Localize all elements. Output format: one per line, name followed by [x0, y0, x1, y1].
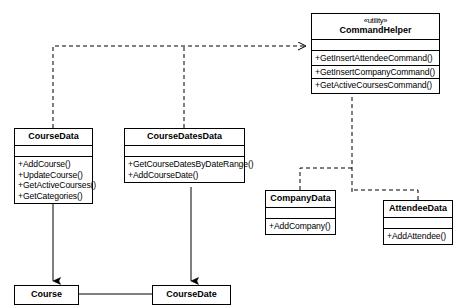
operation-item: +AddCourse(): [15, 159, 92, 170]
class-companydata-operations: +AddCompany(): [266, 219, 335, 234]
class-course-header: Course: [15, 286, 78, 304]
dependency-companydata-to-commandhelper: [300, 168, 352, 190]
operation-item: +GetInsertAttendeeCommand(): [312, 51, 439, 65]
class-companydata-attributes: [266, 208, 335, 219]
class-coursedatesdata-header: CourseDatesData: [125, 129, 244, 146]
operation-item: +AddAttendee(): [384, 231, 452, 242]
class-attendeedata[interactable]: AttendeeData +AddAttendee(): [383, 200, 453, 245]
dependency-coursedata-to-commandhelper: [53, 46, 306, 128]
class-commandhelper-name: CommandHelper: [339, 25, 411, 35]
class-coursedatesdata-attributes: [125, 146, 244, 157]
operation-item: +UpdateCourse(): [15, 170, 92, 181]
class-commandhelper-operations: +GetInsertAttendeeCommand() +GetInsertCo…: [312, 51, 439, 93]
class-coursedatesdata[interactable]: CourseDatesData +GetCourseDatesByDateRan…: [124, 128, 245, 183]
class-course[interactable]: Course: [14, 285, 79, 305]
class-commandhelper-header: «utility» CommandHelper: [312, 14, 439, 40]
class-attendeedata-operations: +AddAttendee(): [384, 229, 452, 244]
operation-item: +AddCourseDate(): [125, 170, 244, 181]
operation-item: +GetActiveCoursesCommand(): [312, 78, 439, 93]
class-coursedate[interactable]: CourseDate: [152, 285, 231, 305]
class-coursedata[interactable]: CourseData +AddCourse() +UpdateCourse() …: [14, 128, 93, 204]
class-attendeedata-attributes: [384, 218, 452, 229]
class-commandhelper-attributes: [312, 40, 439, 51]
class-coursedata-attributes: [15, 146, 92, 157]
diagram-canvas: «utility» CommandHelper +GetInsertAttend…: [0, 0, 461, 308]
class-commandhelper-stereotype: «utility»: [314, 16, 437, 25]
operation-item: +GetCourseDatesByDateRange(): [125, 159, 244, 170]
class-coursedata-operations: +AddCourse() +UpdateCourse() +GetActiveC…: [15, 157, 92, 203]
class-coursedatesdata-operations: +GetCourseDatesByDateRange() +AddCourseD…: [125, 157, 244, 182]
class-commandhelper[interactable]: «utility» CommandHelper +GetInsertAttend…: [311, 13, 440, 94]
operation-item: +GetInsertCompanyCommand(): [312, 65, 439, 79]
class-coursedata-header: CourseData: [15, 129, 92, 146]
operation-item: +GetCategories(): [15, 191, 92, 202]
class-coursedate-header: CourseDate: [153, 286, 230, 304]
operation-item: +AddCompany(): [266, 221, 335, 232]
operation-item: +GetActiveCourses(): [15, 180, 92, 191]
dependency-attendeedata-to-commandhelper: [352, 190, 418, 200]
class-attendeedata-header: AttendeeData: [384, 201, 452, 218]
class-companydata[interactable]: CompanyData +AddCompany(): [265, 190, 336, 235]
class-companydata-header: CompanyData: [266, 191, 335, 208]
